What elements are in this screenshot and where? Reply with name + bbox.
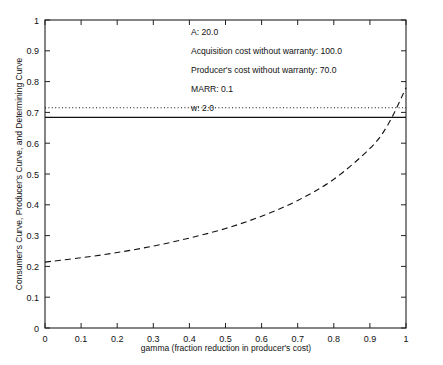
y-tick-label-10: 1 bbox=[34, 16, 39, 26]
plot-area: 00.10.20.30.40.50.60.70.80.91 00.10.20.3… bbox=[0, 0, 443, 365]
annotation-param-marr: MARR: 0.1 bbox=[191, 84, 233, 94]
x-axis-title: gamma (fraction reduction in producer's … bbox=[141, 343, 311, 353]
annotation-param-producer-cost: Producer's cost without warranty: 70.0 bbox=[191, 65, 337, 75]
y-tick-label-6: 0.6 bbox=[26, 139, 39, 149]
y-tick-label-9: 0.9 bbox=[26, 46, 39, 56]
y-tick-label-0: 0 bbox=[34, 324, 39, 334]
y-tick-label-3: 0.3 bbox=[26, 231, 39, 241]
x-tick-label-10: 1 bbox=[403, 334, 408, 344]
x-tick-label-8: 0.8 bbox=[328, 334, 341, 344]
x-tick-label-0: 0 bbox=[42, 334, 47, 344]
y-tick-label-1: 0.1 bbox=[26, 293, 39, 303]
x-tick-label-1: 0.1 bbox=[75, 334, 88, 344]
annotation-param-a: A: 20.0 bbox=[191, 27, 218, 37]
annotation-param-w: w: 2.0 bbox=[190, 103, 214, 113]
annotation-param-acquisition-cost: Acquisition cost without warranty: 100.0 bbox=[191, 46, 342, 56]
x-tick-label-9: 0.9 bbox=[364, 334, 377, 344]
chart-figure: 00.10.20.30.40.50.60.70.80.91 00.10.20.3… bbox=[0, 0, 443, 365]
y-tick-label-7: 0.7 bbox=[26, 108, 39, 118]
y-tick-label-2: 0.2 bbox=[26, 262, 39, 272]
y-axis-title: Consumer's Curve, Producer's Curve, and … bbox=[14, 58, 24, 291]
y-tick-label-5: 0.5 bbox=[26, 170, 39, 180]
x-tick-label-2: 0.2 bbox=[111, 334, 124, 344]
y-tick-label-8: 0.8 bbox=[26, 77, 39, 87]
y-tick-label-4: 0.4 bbox=[26, 200, 39, 210]
